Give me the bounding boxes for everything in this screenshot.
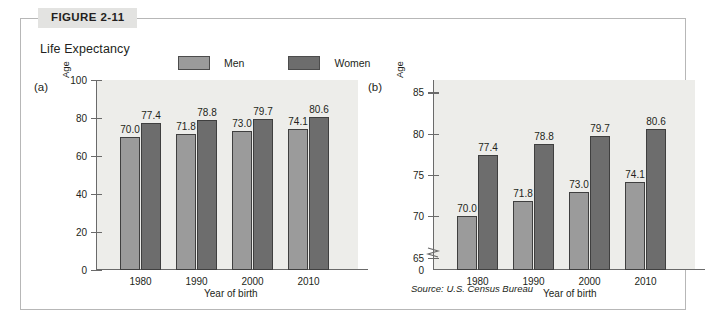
legend-item-men: Men — [178, 56, 244, 70]
x-tick-label-2010: 2010 — [297, 276, 319, 287]
bar-a-1980-men: 70.0 — [120, 137, 140, 270]
bar-a-2010-women: 80.6 — [309, 117, 329, 270]
bar-b-2000-men: 73.0 — [569, 192, 589, 270]
x-tick-label-1990: 1990 — [185, 276, 207, 287]
y-tick-mark-icon — [91, 270, 102, 271]
bar-a-2010-men: 74.1 — [288, 129, 308, 270]
bar-value-label: 71.8 — [513, 188, 532, 199]
x-tick-label-2000: 2000 — [578, 276, 600, 287]
bar-value-label: 78.8 — [197, 107, 216, 118]
legend-item-women: Women — [288, 56, 370, 70]
legend-label-women: Women — [334, 57, 370, 69]
bar-b-1980-women: 77.4 — [478, 155, 498, 270]
bar-value-label: 71.8 — [176, 121, 195, 132]
bar-value-label: 77.4 — [141, 110, 160, 121]
bar-group-b: 70.077.4198071.878.8199073.079.7200074.1… — [433, 80, 695, 270]
x-tick-label-1980: 1980 — [129, 276, 151, 287]
figure-title: Life Expectancy — [40, 42, 130, 56]
y-tick-label: 80 — [76, 113, 87, 124]
chart-legend: Men Women — [178, 56, 370, 70]
y-tick-label: 0 — [418, 265, 424, 276]
bar-a-2000-men: 73.0 — [232, 131, 252, 270]
y-tick-label: 75 — [413, 170, 424, 181]
bar-value-label: 78.8 — [534, 131, 553, 142]
y-tick-label: 40 — [76, 189, 87, 200]
y-tick-label: 65 — [413, 252, 424, 263]
y-tick-label: 0 — [81, 265, 87, 276]
bar-b-2010-men: 74.1 — [625, 182, 645, 270]
legend-swatch-women-icon — [288, 56, 320, 70]
bar-value-label: 73.0 — [232, 118, 251, 129]
plot-area-a: 020406080100 70.077.4198071.878.8199073.… — [96, 80, 358, 270]
legend-swatch-men-icon — [178, 56, 210, 70]
bar-value-label: 79.7 — [590, 123, 609, 134]
source-note: Source: U.S. Census Bureau — [411, 283, 533, 294]
x-tick-label-2000: 2000 — [241, 276, 263, 287]
bar-value-label: 70.0 — [457, 203, 476, 214]
bar-b-1990-women: 78.8 — [534, 144, 554, 270]
y-tick-label: 80 — [413, 128, 424, 139]
bar-value-label: 77.4 — [478, 142, 497, 153]
x-axis-title-a: Year of birth — [204, 288, 258, 299]
bar-value-label: 80.6 — [309, 104, 328, 115]
y-tick-label: 60 — [76, 151, 87, 162]
y-axis-title-b: Age — [394, 61, 405, 78]
bar-b-1980-men: 70.0 — [457, 216, 477, 270]
plot-area-b: 65707580850 70.077.4198071.878.8199073.0… — [433, 80, 695, 270]
bar-a-1990-men: 71.8 — [176, 134, 196, 270]
bar-value-label: 80.6 — [646, 116, 665, 127]
bar-b-2000-women: 79.7 — [590, 136, 610, 270]
bar-value-label: 74.1 — [288, 116, 307, 127]
bar-b-2010-women: 80.6 — [646, 129, 666, 270]
bar-b-1990-men: 71.8 — [513, 201, 533, 270]
y-tick-label: 70 — [413, 211, 424, 222]
bar-group-a: 70.077.4198071.878.8199073.079.7200074.1… — [96, 80, 358, 270]
bar-a-1980-women: 77.4 — [141, 123, 161, 270]
y-tick-label: 20 — [76, 227, 87, 238]
bar-a-1990-women: 78.8 — [197, 120, 217, 270]
bar-value-label: 79.7 — [253, 106, 272, 117]
figure-number-tag: FIGURE 2-11 — [38, 8, 137, 28]
bar-value-label: 73.0 — [569, 179, 588, 190]
y-tick-label: 85 — [413, 87, 424, 98]
legend-label-men: Men — [224, 57, 244, 69]
bar-value-label: 74.1 — [625, 169, 644, 180]
x-tick-label-2010: 2010 — [634, 276, 656, 287]
x-axis-title-b: Year of birth — [543, 288, 597, 299]
bar-value-label: 70.0 — [120, 124, 139, 135]
y-tick-label: 100 — [70, 75, 87, 86]
bar-a-2000-women: 79.7 — [253, 119, 273, 270]
panel-letter-a: (a) — [34, 81, 48, 93]
panel-letter-b: (b) — [368, 81, 382, 93]
